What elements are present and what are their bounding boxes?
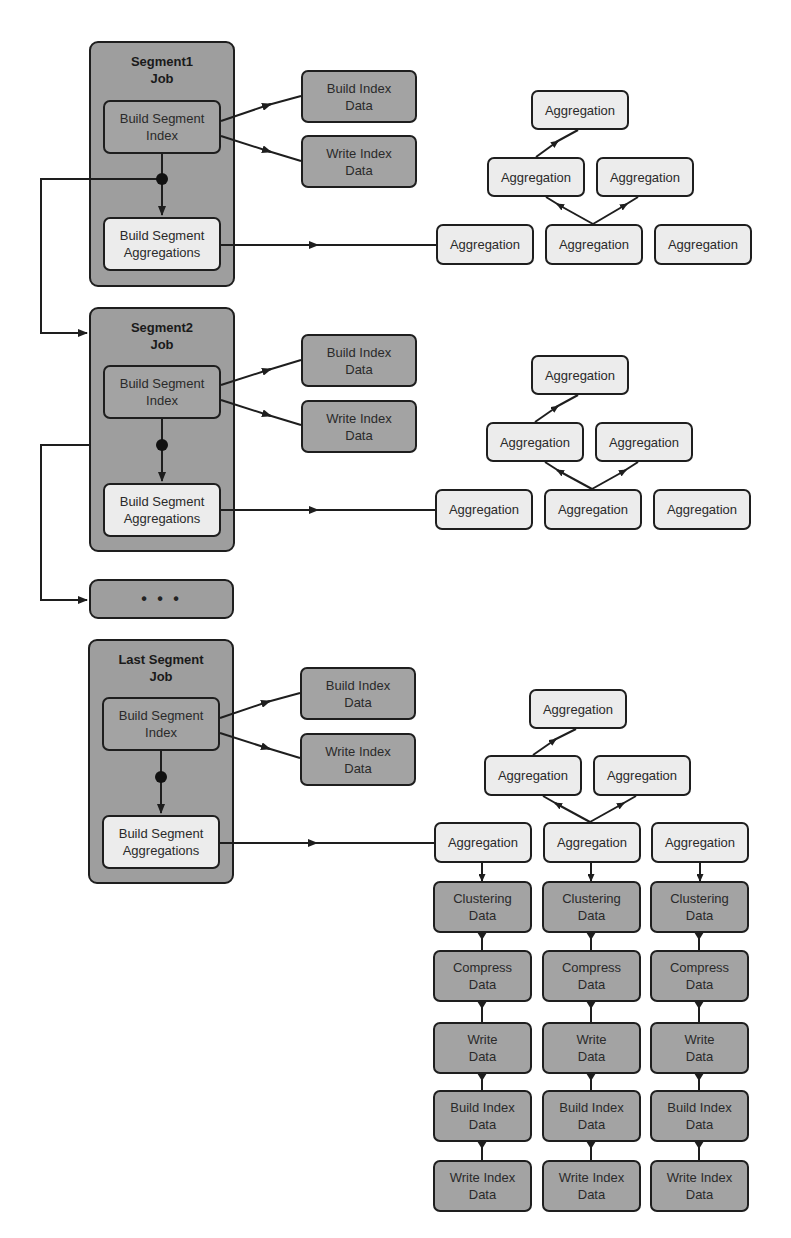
task-label-line2: Data [453, 907, 512, 924]
segment2-job-title: Segment2 Job [91, 319, 233, 353]
task-label-line1: Build Index [327, 344, 391, 361]
job-title-line1: Last Segment [90, 651, 232, 668]
last-segment-aggregation-bottom-2: Aggregation [543, 822, 641, 863]
task-label-line2: Index [119, 724, 204, 741]
task-label-line1: Compress [562, 959, 621, 976]
task-label-line2: Index [120, 127, 205, 144]
task-label-line1: Clustering [562, 890, 621, 907]
task-label-line2: Data [325, 760, 391, 777]
task-label-line2: Data [467, 1048, 497, 1065]
task-label-line2: Data [327, 97, 391, 114]
task-label-line2: Data [327, 361, 391, 378]
task-label-line1: Build Index [326, 677, 390, 694]
task-label-line1: Build Index [327, 80, 391, 97]
last-segment-aggregation-mid-right: Aggregation [593, 755, 691, 796]
segment2-build-index-data: Build IndexData [301, 334, 417, 387]
task-label-line1: Build Segment [120, 227, 205, 244]
segment1-build-segment-index: Build SegmentIndex [103, 100, 221, 154]
pipeline-1-write-data: WriteData [433, 1022, 532, 1074]
task-label-line1: Compress [670, 959, 729, 976]
pipeline-3-build-index-data: Build IndexData [650, 1090, 749, 1142]
job-title-line2: Job [90, 668, 232, 685]
task-label-line2: Data [562, 976, 621, 993]
task-label-line1: Build Segment [119, 707, 204, 724]
segment-job-diagram: Segment1 Job Build SegmentIndex Build Se… [0, 0, 791, 1238]
segment2-build-segment-aggregations: Build SegmentAggregations [103, 483, 221, 537]
task-label-line1: Clustering [453, 890, 512, 907]
task-label-line1: Write Index [326, 410, 392, 427]
task-label-line2: Data [670, 976, 729, 993]
last-segment-job-title: Last Segment Job [90, 651, 232, 685]
task-label-line1: Write Index [559, 1169, 625, 1186]
task-label-line2: Aggregations [120, 510, 205, 527]
task-label-line2: Data [326, 162, 392, 179]
pipeline-3-write-data: WriteData [650, 1022, 749, 1074]
task-label-line2: Data [559, 1186, 625, 1203]
task-label-line1: Write [576, 1031, 606, 1048]
task-label-line2: Data [670, 907, 729, 924]
task-label-line1: Build Segment [119, 825, 204, 842]
job-title-line2: Job [91, 336, 233, 353]
segment1-job-title: Segment1 Job [91, 53, 233, 87]
segment2-aggregation-mid-left: Aggregation [486, 422, 584, 462]
task-label-line1: Build Segment [120, 493, 205, 510]
segment1-aggregation-bottom-2: Aggregation [545, 224, 643, 265]
task-label-line1: Build Segment [120, 110, 205, 127]
task-label-line2: Data [453, 976, 512, 993]
task-label-line2: Data [450, 1186, 516, 1203]
task-label-line1: Write Index [450, 1169, 516, 1186]
job-title-line1: Segment1 [91, 53, 233, 70]
task-label-line2: Data [576, 1048, 606, 1065]
segment1-write-index-data: Write IndexData [301, 135, 417, 188]
segment1-build-segment-aggregations: Build SegmentAggregations [103, 217, 221, 271]
task-label-line1: Write [467, 1031, 497, 1048]
last-segment-build-index-data: Build IndexData [300, 667, 416, 720]
task-label-line2: Aggregations [119, 842, 204, 859]
segment1-build-index-data: Build IndexData [301, 70, 417, 123]
task-label-line2: Data [326, 694, 390, 711]
last-segment-aggregation-mid-left: Aggregation [484, 755, 582, 796]
segment2-aggregation-bottom-1: Aggregation [435, 489, 533, 530]
pipeline-2-build-index-data: Build IndexData [542, 1090, 641, 1142]
task-label-line2: Data [667, 1186, 733, 1203]
pipeline-2-write-data: WriteData [542, 1022, 641, 1074]
more-segments-job: • • • [89, 579, 234, 619]
segment1-aggregation-bottom-1: Aggregation [436, 224, 534, 265]
segment2-aggregation-top: Aggregation [531, 355, 629, 395]
pipeline-2-write-index-data: Write IndexData [542, 1160, 641, 1212]
segment2-write-index-data: Write IndexData [301, 400, 417, 453]
segment2-aggregation-bottom-3: Aggregation [653, 489, 751, 530]
last-segment-write-index-data: Write IndexData [300, 733, 416, 786]
last-segment-build-segment-index: Build SegmentIndex [102, 697, 220, 751]
pipeline-3-compress-data: CompressData [650, 950, 749, 1002]
last-segment-aggregation-bottom-3: Aggregation [651, 822, 749, 863]
pipeline-1-compress-data: CompressData [433, 950, 532, 1002]
pipeline-3-clustering-data: ClusteringData [650, 881, 749, 933]
task-label-line2: Data [326, 427, 392, 444]
last-segment-aggregation-top: Aggregation [529, 689, 627, 729]
task-label-line2: Aggregations [120, 244, 205, 261]
task-label-line1: Write Index [667, 1169, 733, 1186]
task-label-line1: Build Index [667, 1099, 731, 1116]
ellipsis-label: • • • [141, 590, 182, 608]
task-label-line1: Compress [453, 959, 512, 976]
segment1-aggregation-bottom-3: Aggregation [654, 224, 752, 265]
task-label-line2: Data [684, 1048, 714, 1065]
task-label-line1: Write [684, 1031, 714, 1048]
task-label-line1: Clustering [670, 890, 729, 907]
segment2-aggregation-mid-right: Aggregation [595, 422, 693, 462]
segment1-aggregation-mid-left: Aggregation [487, 157, 585, 197]
task-label-line1: Build Segment [120, 375, 205, 392]
task-label-line1: Write Index [325, 743, 391, 760]
task-label-line2: Data [562, 907, 621, 924]
pipeline-1-build-index-data: Build IndexData [433, 1090, 532, 1142]
pipeline-3-write-index-data: Write IndexData [650, 1160, 749, 1212]
task-label-line1: Write Index [326, 145, 392, 162]
segment1-aggregation-mid-right: Aggregation [596, 157, 694, 197]
pipeline-1-write-index-data: Write IndexData [433, 1160, 532, 1212]
task-label-line1: Build Index [559, 1099, 623, 1116]
segment2-build-segment-index: Build SegmentIndex [103, 365, 221, 419]
last-segment-build-segment-aggregations: Build SegmentAggregations [102, 815, 220, 869]
pipeline-2-clustering-data: ClusteringData [542, 881, 641, 933]
task-label-line2: Data [450, 1116, 514, 1133]
